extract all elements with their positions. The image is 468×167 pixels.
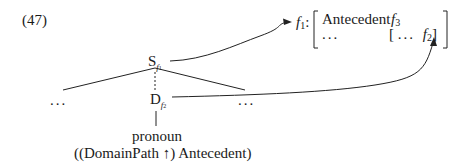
edge-s-left (63, 68, 155, 90)
arrowhead-f1 (283, 19, 292, 26)
fs-right-bracket (443, 11, 447, 48)
leaf-annotation: ((DomainPath ↑) Antecedent) (74, 146, 251, 161)
fs-inner-ellipsis: ... (398, 26, 415, 42)
fs-attr-ellipsis: ... (322, 27, 339, 42)
fs-inner-close-bracket: ] (432, 26, 437, 42)
left-sibling-ellipsis: ... (50, 93, 67, 108)
node-s-fvar: f1 (156, 62, 162, 72)
fs-inner-structure: [ ... f2] (389, 27, 437, 43)
fs-inner-f2: f2 (423, 26, 432, 42)
fs-attr-antecedent: Antecedent (322, 12, 390, 27)
node-d-label: D (150, 91, 161, 107)
right-sibling-ellipsis: ... (238, 93, 255, 108)
fs-label: f1: (296, 15, 309, 31)
leaf-word: pronoun (132, 129, 182, 144)
node-d: Df2 (150, 92, 166, 110)
example-number: (47) (22, 13, 47, 28)
fs-left-bracket (314, 11, 318, 48)
fs-inner-open-bracket: [ (389, 26, 394, 42)
edge-s-right (155, 68, 245, 90)
arrow-d-to-f2 (172, 43, 433, 97)
node-s: Sf1 (148, 54, 162, 72)
arrow-s-to-f1 (170, 22, 287, 61)
node-d-fvar: f2 (161, 100, 167, 110)
